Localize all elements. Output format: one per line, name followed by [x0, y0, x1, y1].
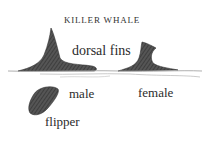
female-label: female — [138, 85, 173, 101]
flipper-label: flipper — [45, 114, 80, 130]
killer-whale-illustration — [0, 0, 204, 152]
water-line — [40, 74, 200, 77]
flipper-icon — [29, 87, 59, 115]
dorsal-fins-label: dorsal fins — [72, 43, 131, 59]
male-label: male — [69, 86, 94, 102]
